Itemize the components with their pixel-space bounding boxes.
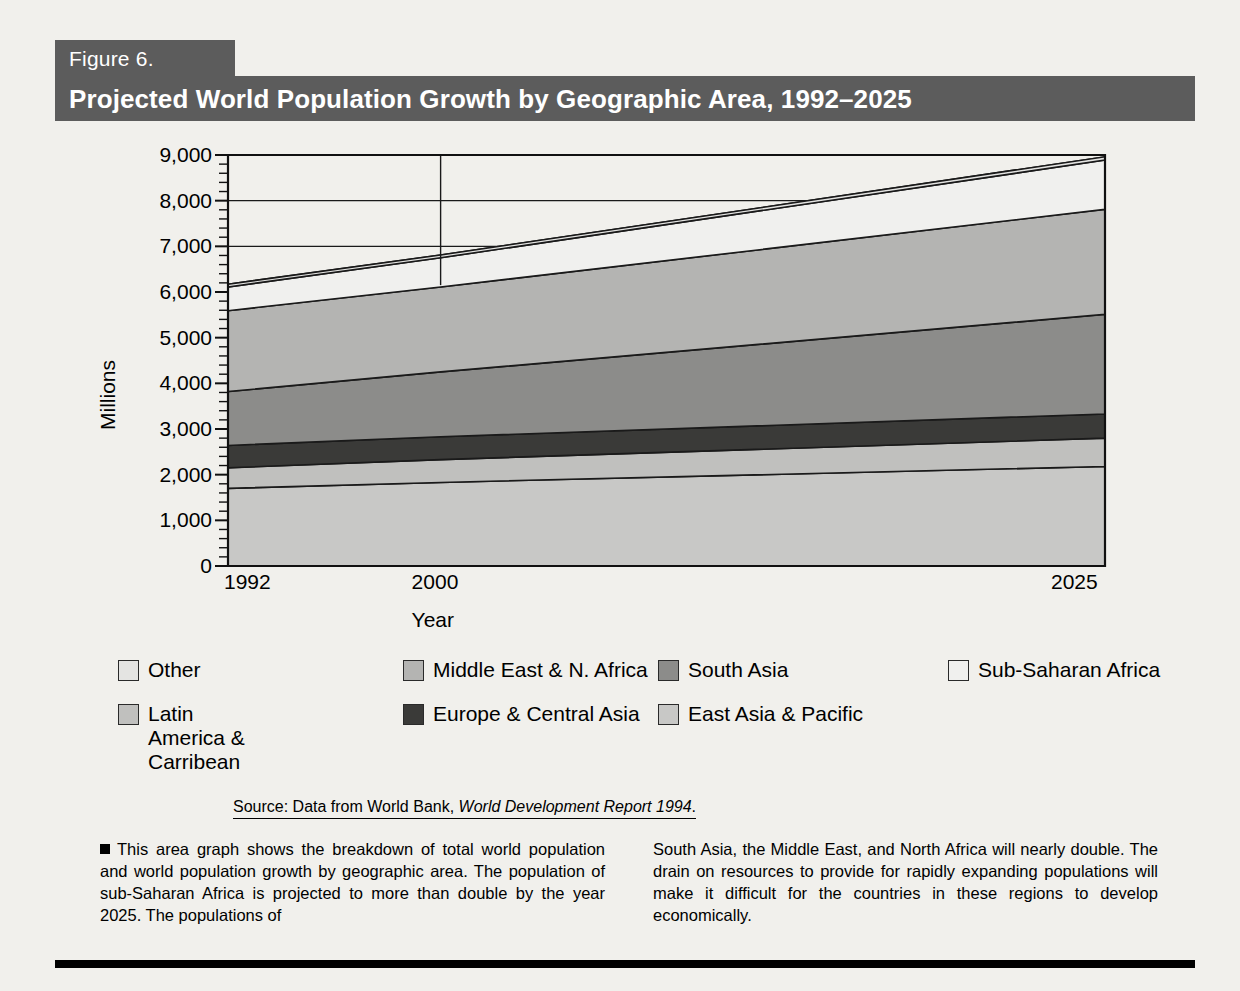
source-italic-title: World Development Report 1994 bbox=[459, 798, 692, 815]
legend-item: Latin America & Carribean bbox=[118, 702, 268, 774]
legend-label: Other bbox=[148, 658, 201, 682]
legend-swatch bbox=[403, 704, 424, 725]
legend-item: Middle East & N. Africa bbox=[403, 658, 648, 682]
figure-page: Figure 6. Projected World Population Gro… bbox=[0, 0, 1240, 991]
legend-label: Middle East & N. Africa bbox=[433, 658, 648, 682]
chart-area: Millions 01,0002,0003,0004,0005,0006,000… bbox=[0, 130, 1240, 650]
page-title: Projected World Population Growth by Geo… bbox=[69, 84, 912, 115]
legend-item: Other bbox=[118, 658, 201, 682]
legend-label: South Asia bbox=[688, 658, 788, 682]
figure-number-tab: Figure 6. bbox=[55, 40, 235, 76]
caption-column-right: South Asia, the Middle East, and North A… bbox=[653, 838, 1158, 926]
figure-number-label: Figure 6. bbox=[69, 47, 154, 71]
legend-item: Europe & Central Asia bbox=[403, 702, 640, 726]
legend-item: Sub-Saharan Africa bbox=[948, 658, 1160, 682]
legend-swatch bbox=[118, 660, 139, 681]
x-tick-label: 2025 bbox=[1051, 570, 1098, 594]
legend-swatch bbox=[658, 704, 679, 725]
x-axis-label: Year bbox=[412, 608, 454, 632]
caption-body: This area graph shows the breakdown of t… bbox=[100, 838, 1158, 948]
legend-label: Europe & Central Asia bbox=[433, 702, 640, 726]
chart-legend: OtherMiddle East & N. AfricaSouth AsiaSu… bbox=[118, 658, 1178, 768]
legend-swatch bbox=[403, 660, 424, 681]
legend-swatch bbox=[118, 704, 139, 725]
legend-item: South Asia bbox=[658, 658, 788, 682]
x-tick-label: 2000 bbox=[412, 570, 459, 594]
legend-label: Latin America & Carribean bbox=[148, 702, 268, 774]
x-tick-label: 1992 bbox=[224, 570, 271, 594]
caption-column-left: This area graph shows the breakdown of t… bbox=[100, 838, 605, 926]
legend-swatch bbox=[658, 660, 679, 681]
bottom-rule bbox=[55, 960, 1195, 968]
legend-swatch bbox=[948, 660, 969, 681]
legend-label: Sub-Saharan Africa bbox=[978, 658, 1160, 682]
source-suffix: . bbox=[692, 798, 696, 815]
figure-title-bar: Projected World Population Growth by Geo… bbox=[55, 76, 1195, 121]
caption-text-left: This area graph shows the breakdown of t… bbox=[100, 840, 605, 924]
legend-item: East Asia & Pacific bbox=[658, 702, 863, 726]
source-prefix: Source: Data from World Bank, bbox=[233, 798, 459, 815]
source-note: Source: Data from World Bank, World Deve… bbox=[233, 798, 696, 819]
caption-text-right: South Asia, the Middle East, and North A… bbox=[653, 840, 1158, 924]
bullet-square-icon bbox=[100, 844, 110, 854]
legend-label: East Asia & Pacific bbox=[688, 702, 863, 726]
